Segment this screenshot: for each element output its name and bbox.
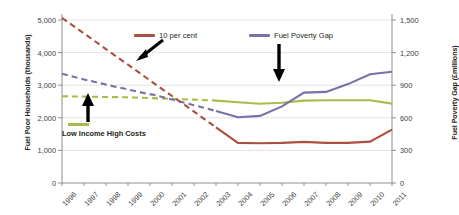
legend-item-ten-per-cent: 10 per cent <box>134 31 197 40</box>
series-line-fuel-poverty-gap <box>216 72 392 118</box>
arrow-fuel-poverty-gap-icon <box>273 44 285 82</box>
left-axis-tick-1000: 1,000 <box>22 146 56 155</box>
right-axis-tick-900: 900 <box>400 81 434 90</box>
legend-label-fuel-poverty-gap: Fuel Poverty Gap <box>274 31 333 40</box>
right-axis-tick-1200: 1,200 <box>400 49 434 58</box>
legend-label-ten-per-cent: 10 per cent <box>159 31 197 40</box>
legend-item-fuel-poverty-gap: Fuel Poverty Gap <box>249 31 333 40</box>
left-axis-tick-5000: 5,000 <box>22 16 56 25</box>
left-axis-tick-4000: 4,000 <box>22 49 56 58</box>
left-axis-tickmarks <box>58 20 62 183</box>
legend-swatch-low-income-high-costs-icon <box>68 123 89 126</box>
right-axis-tick-600: 600 <box>400 114 434 123</box>
series-line-low-income-high-costs <box>216 100 392 104</box>
series-line-ten-per-cent <box>216 127 392 143</box>
left-axis-tick-2000: 2,000 <box>22 114 56 123</box>
right-axis-tick-300: 300 <box>400 146 434 155</box>
arrow-ten-per-cent-icon <box>136 40 163 61</box>
axis-lines <box>62 14 392 183</box>
right-axis-tickmarks <box>392 20 396 183</box>
left-axis-tick-3000: 3,000 <box>22 81 56 90</box>
legend-swatch-ten-per-cent-icon <box>134 34 155 37</box>
legend-swatch-fuel-poverty-gap-icon <box>249 34 270 37</box>
legend-label-low-income-high-costs: Low Income High Costs <box>62 129 158 138</box>
left-axis-tick-0: 0 <box>22 179 56 188</box>
right-axis-tick-0: 0 <box>400 179 434 188</box>
legend-item-low-income-high-costs: Low Income High Costs <box>62 123 158 138</box>
right-axis-tick-1500: 1,500 <box>400 16 434 25</box>
